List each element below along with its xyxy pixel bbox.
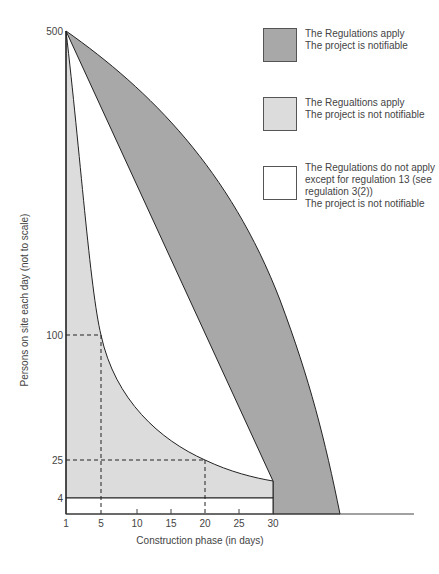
- legend-text: The Regualtions apply The project is not…: [305, 97, 439, 121]
- x-tick-20: 20: [199, 518, 211, 529]
- y-tick-25: 25: [52, 455, 64, 466]
- y-axis-title: Persons on site each day (not to scale): [19, 214, 30, 387]
- x-axis-title: Construction phase (in days): [136, 535, 263, 546]
- legend-line: regulation 3(2)): [305, 186, 439, 198]
- legend-line: The project is not notifiable: [305, 109, 439, 121]
- legend-line: The Regulations do not apply: [305, 162, 439, 174]
- y-tick-4: 4: [57, 493, 63, 504]
- y-tick-500: 500: [46, 26, 63, 37]
- legend-swatch-light: [263, 97, 297, 131]
- legend-item-notifiable: The Regulations apply The project is not…: [263, 28, 439, 62]
- legend-line: The Regulations apply: [305, 28, 439, 40]
- x-tick-10: 10: [131, 518, 143, 529]
- chart-canvas: 500 100 25 4 1 5 10 15 20 25 30 Construc…: [0, 0, 439, 574]
- legend-item-not-notifiable: The Regualtions apply The project is not…: [263, 97, 439, 131]
- x-tick-5: 5: [98, 518, 104, 529]
- legend-swatch-white: [263, 166, 297, 200]
- x-tick-1: 1: [63, 518, 69, 529]
- legend-line: except for regulation 13 (see: [305, 174, 439, 186]
- legend-text: The Regulations do not apply except for …: [305, 162, 439, 210]
- legend-line: The project is not notifiable: [305, 198, 439, 210]
- x-tick-25: 25: [233, 518, 245, 529]
- legend-text: The Regulations apply The project is not…: [305, 28, 439, 52]
- x-tick-30: 30: [267, 518, 279, 529]
- legend-swatch-dark: [263, 28, 297, 62]
- legend-line: The project is notifiable: [305, 40, 439, 52]
- y-tick-100: 100: [46, 330, 63, 341]
- region-not-apply: [66, 498, 273, 514]
- legend-line: The Regualtions apply: [305, 97, 439, 109]
- legend-item-not-apply: The Regulations do not apply except for …: [263, 166, 439, 210]
- x-tick-15: 15: [165, 518, 177, 529]
